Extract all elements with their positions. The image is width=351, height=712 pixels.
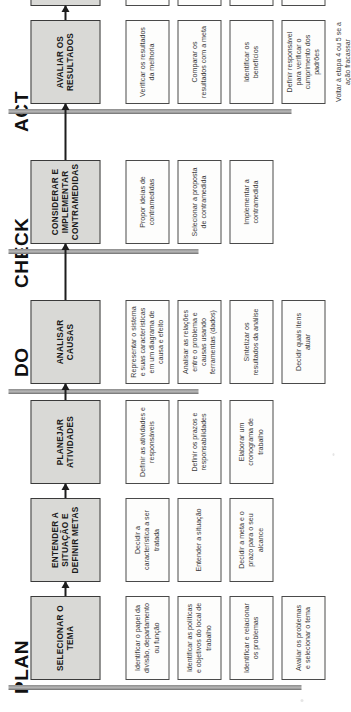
flow-arrow-icon xyxy=(64,104,66,160)
task-label: Definir os prazos e responsabilidades xyxy=(190,406,208,478)
step-box[interactable]: PLANEJAR ATIVIDADES xyxy=(30,400,100,484)
step-label: CONSIDERAR E IMPLEMENTAR CONTRAMEDIDAS xyxy=(50,164,81,241)
task-box[interactable]: Verificar se os benefícios estão sendo m… xyxy=(281,0,325,6)
task-box[interactable]: Decidir quais itens atuar xyxy=(281,300,325,384)
step-label: PADRONIZAR E ESTABELECER CONTROLE xyxy=(50,0,81,1)
scan-speck xyxy=(332,453,334,456)
task-box[interactable]: Representar o sistema e suas característ… xyxy=(125,300,169,384)
task-label: Implementar a contramedida xyxy=(242,166,260,238)
step-label: ANALISAR CAUSAS xyxy=(55,305,76,379)
task-label: Definir responsável para verificar o cum… xyxy=(285,26,322,98)
task-box[interactable]: Verificar os resultados da melhoria xyxy=(125,20,169,104)
task-label: Decidir quais itens atuar xyxy=(294,306,312,378)
task-box[interactable]: Identificar os benefícios xyxy=(229,20,273,104)
step-box[interactable]: ENTENDER A SITUAÇÃO E DEFINIR METAS xyxy=(30,498,100,582)
task-box[interactable]: Definir os prazos e responsabilidades xyxy=(177,400,221,484)
step-label: ENTENDER A SITUAÇÃO E DEFINIR METAS xyxy=(50,503,81,577)
step-label: PLANEJAR ATIVIDADES xyxy=(55,405,76,479)
flow-arrow-icon xyxy=(64,244,66,300)
step-box[interactable]: AVALIAR OS RESULTADOS xyxy=(30,20,100,104)
flow-arrow-icon xyxy=(64,6,66,20)
flow-arrow-icon xyxy=(64,384,66,400)
task-label: Decidir a meta e o prazo para o seu alca… xyxy=(237,504,265,576)
task-box[interactable]: Analisar as relações entre o problema e … xyxy=(177,300,221,384)
task-box[interactable]: Decidir a característica a ser tratada xyxy=(125,498,169,582)
step-box[interactable]: ANALISAR CAUSAS xyxy=(30,300,100,384)
task-label: Selecionar a proposta de contramedida xyxy=(190,166,208,238)
scan-speck xyxy=(18,232,20,234)
task-box[interactable]: Oficializar os padrões temporários xyxy=(125,0,169,6)
task-box[interactable]: Sintetizar os resultados da análise xyxy=(229,300,273,384)
phase-bar-do xyxy=(8,389,198,394)
task-box[interactable]: Verificar se os benefícios estão sendo m… xyxy=(229,0,273,6)
flow-arrow-icon xyxy=(64,582,66,596)
task-box[interactable]: Elaborar um cronograma de trabalho xyxy=(229,400,273,484)
step-label: SELECIONAR O TEMA xyxy=(55,601,76,675)
task-label: Decidir a característica a ser tratada xyxy=(133,504,161,576)
task-label: Identificar os benefícios xyxy=(242,26,260,98)
task-label: Representar o sistema e suas característ… xyxy=(129,306,166,378)
phase-bar-check xyxy=(8,249,198,254)
task-box[interactable]: Implementar a contramedida xyxy=(229,160,273,244)
phase-bar-plan xyxy=(8,685,301,690)
task-box[interactable]: Entender a situação xyxy=(177,498,221,582)
task-label: Avaliar os problemas e selecionar o tema xyxy=(294,602,312,674)
task-label: Propor ideias de contramedidas xyxy=(138,166,156,238)
step-box[interactable]: SELECIONAR O TEMA xyxy=(30,596,100,680)
task-label: Definir as atividades e responsáveis xyxy=(138,406,156,478)
task-box[interactable]: Identificar e relacionar os problemas xyxy=(229,596,273,680)
phase-bar-act xyxy=(8,109,291,114)
flow-arrow-icon xyxy=(64,484,66,498)
step-label: AVALIAR OS RESULTADOS xyxy=(55,25,76,99)
task-box[interactable]: Definir as atividades e responsáveis xyxy=(125,400,169,484)
task-label: Identificar o papel da divisão, departam… xyxy=(133,602,161,674)
task-box[interactable]: Comparar os resultados com a meta xyxy=(177,20,221,104)
task-box[interactable]: Selecionar a proposta de contramedida xyxy=(177,160,221,244)
task-label: Verificar os resultados da melhoria xyxy=(138,26,156,98)
scan-speck xyxy=(300,699,303,702)
footnote: Voltar à etapa 4 ou 5 se a ação fracassa… xyxy=(333,19,351,105)
task-label: Sintetizar os resultados da análise xyxy=(242,306,260,378)
task-label: Comparar os resultados com a meta xyxy=(190,26,208,98)
task-label: Identificar e relacionar os problemas xyxy=(242,602,260,674)
task-label: Identificar as políticas e objetivos do … xyxy=(185,602,213,674)
task-box[interactable]: Identificar as políticas e objetivos do … xyxy=(177,596,221,680)
task-label: Analisar as relações entre o problema e … xyxy=(181,306,218,378)
task-box[interactable]: Disseminar o método de controle para os … xyxy=(177,0,221,6)
task-box[interactable]: Decidir a meta e o prazo para o seu alca… xyxy=(229,498,273,582)
phase-title-do: DO xyxy=(10,347,32,377)
task-box[interactable]: Identificar o papel da divisão, departam… xyxy=(125,596,169,680)
task-label: Elaborar um cronograma de trabalho xyxy=(237,406,265,478)
task-label: Entender a situação xyxy=(194,508,203,571)
task-box[interactable]: Propor ideias de contramedidas xyxy=(125,160,169,244)
task-box[interactable]: Avaliar os problemas e selecionar o tema xyxy=(281,596,325,680)
task-box[interactable]: Definir responsável para verificar o cum… xyxy=(281,20,325,104)
step-box[interactable]: CONSIDERAR E IMPLEMENTAR CONTRAMEDIDAS xyxy=(30,160,100,244)
